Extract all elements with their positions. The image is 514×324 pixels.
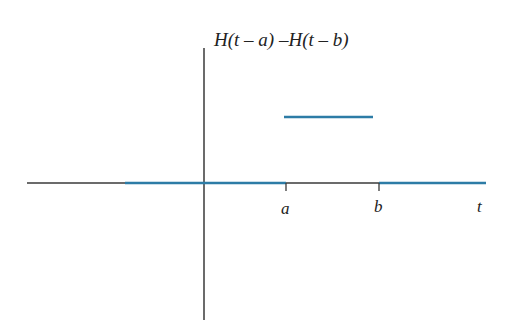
function-title: H(t – a) –H(t – b) (214, 29, 349, 51)
tick-label-a: a (281, 199, 290, 219)
tick-label-b: b (374, 197, 383, 217)
axis-label-t: t (477, 197, 482, 217)
